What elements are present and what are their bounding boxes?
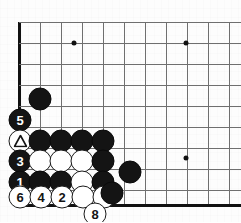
board-horizontal-line [19,22,241,23]
black-stone-q[interactable] [101,182,124,205]
star-point-lower-right [184,156,189,161]
stone-move-number: 5 [16,113,23,126]
white-stone-g[interactable] [50,150,73,173]
stone-move-number: 6 [16,190,23,203]
white-stone-move-2[interactable]: 2 [51,186,74,209]
board-vertical-line [187,22,188,204]
stone-move-number: 4 [37,190,44,203]
black-stone-n[interactable] [119,161,142,184]
white-stone-move-4[interactable]: 4 [30,186,53,209]
board-horizontal-line [19,43,241,44]
board-horizontal-line [19,106,241,107]
board-horizontal-line [19,127,241,128]
stone-move-number: 2 [58,190,65,203]
black-stone-move-5[interactable]: 5 [9,109,32,132]
white-stone-h[interactable] [71,150,94,173]
triangle-mark-icon [13,135,27,148]
stone-move-number: 8 [91,207,98,220]
star-point-upper-right [184,41,189,46]
star-point-upper-left [72,41,77,46]
black-stone-i[interactable] [92,150,115,173]
board-bottom-edge-line [17,204,241,207]
board-horizontal-line [19,85,241,86]
board-vertical-line [166,22,167,204]
black-stone-a[interactable] [29,88,52,111]
white-stone-f[interactable] [29,150,52,173]
board-vertical-line [145,22,146,204]
white-stone-move-8[interactable]: 8 [84,203,107,223]
board-vertical-line [229,22,230,204]
white-stone-move-6[interactable]: 6 [9,186,32,209]
board-horizontal-line [19,64,241,65]
board-vertical-line [208,22,209,204]
stone-move-number: 3 [16,154,23,167]
go-board[interactable]: 5316428 [0,0,241,222]
